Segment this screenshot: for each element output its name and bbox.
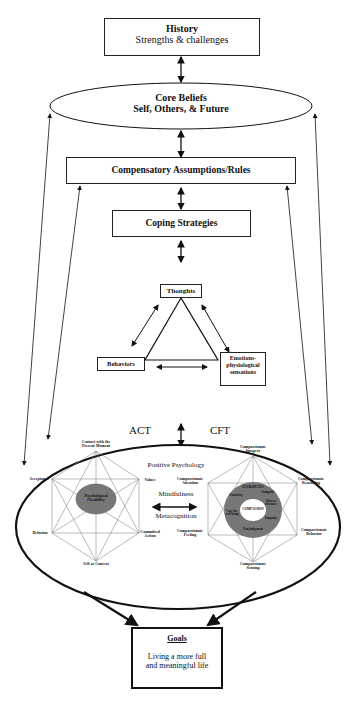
emotions-box: Emotions- physiological sensations (220, 352, 266, 386)
cft-rt-2: Reasoning (293, 481, 329, 485)
act-title: ACT (120, 425, 160, 437)
cft-ring-item: Sympathy (256, 491, 280, 494)
act-present-moment: Contact with the Present Moment (76, 440, 116, 448)
cft-reasoning: Compassionate Reasoning (293, 477, 329, 485)
behaviors-label: Behaviors (107, 360, 135, 367)
act-center-line2: Flexibility (78, 498, 114, 502)
thoughts-box: Thoughts (160, 284, 202, 298)
act-committed-action: Committed Action (138, 530, 162, 538)
cft-ring-item: Care for well-being (224, 510, 240, 516)
cft-lb-2: Feeling (172, 533, 208, 537)
history-box: History Strengths & challenges (104, 18, 260, 56)
goals-line-2: and meaningful life (133, 661, 221, 670)
cft-ring-item: Distress tolerance (262, 500, 280, 506)
act-acceptance: Acceptance (26, 477, 52, 481)
cft-ring-item: Sensitivity (224, 494, 248, 497)
metacognition: Metacognition (146, 513, 206, 520)
emotions-line-1: Emotions- (221, 355, 265, 362)
goals-box: Goals Living a more full and meaningful … (131, 627, 223, 689)
emotions-line-3: sensations (221, 369, 265, 376)
goals-title: Goals (133, 634, 221, 643)
cft-title: CFT (200, 425, 240, 437)
history-title: History (105, 23, 259, 34)
cft-b-2: Sensing (233, 566, 273, 570)
behaviors-box: Behaviors (97, 357, 145, 371)
coping-box: Coping Strategies (112, 210, 251, 237)
mindfulness: Mindfulness (146, 491, 206, 498)
cft-rb-2: Behavior (296, 532, 332, 536)
cft-ring-item: Non-judgement (238, 528, 268, 531)
cft-sensing: Compassionate Sensing (233, 562, 273, 570)
core-beliefs-label: Core Beliefs Self, Others, & Future (90, 93, 272, 114)
act-values: Values (140, 478, 160, 482)
cft-center: COMPASSION (240, 508, 266, 511)
cft-top-2: Imagery (233, 449, 273, 453)
cft-behavior: Compassionate Behavior (296, 528, 332, 536)
cft-ring-item: Empathy (262, 517, 280, 520)
goals-line-1: Living a more full (133, 652, 221, 661)
cft-imagery: Compassionate Imagery (233, 445, 273, 453)
coping-title: Coping Strategies (145, 218, 217, 228)
act-self-as-context: Self as Context (76, 562, 116, 566)
cft-feeling: Compassionate Feeling (172, 529, 208, 537)
thoughts-label: Thoughts (167, 287, 195, 295)
act-committed-line2: Action (138, 534, 162, 538)
compensatory-box: Compensatory Assumptions/Rules (66, 157, 296, 184)
act-psych-flexibility: Psychological Flexibility (78, 494, 114, 502)
cft-attention: Compassionate Attention (172, 477, 208, 485)
cft-lt-2: Attention (172, 481, 208, 485)
history-subtitle: Strengths & challenges (105, 34, 259, 45)
emotions-line-2: physiological (221, 362, 265, 369)
core-beliefs-title: Core Beliefs (90, 93, 272, 104)
act-defusion: Defusion (28, 531, 52, 535)
compensatory-title: Compensatory Assumptions/Rules (111, 165, 250, 175)
positive-psychology: Positive Psychology (136, 462, 216, 469)
core-beliefs-subtitle: Self, Others, & Future (90, 104, 272, 115)
